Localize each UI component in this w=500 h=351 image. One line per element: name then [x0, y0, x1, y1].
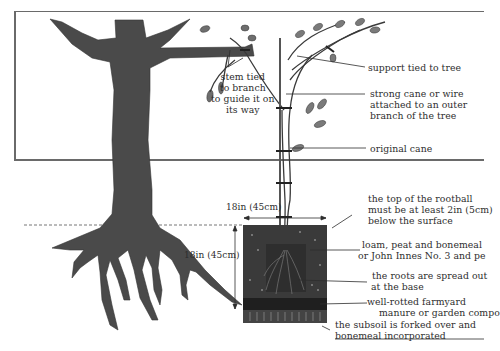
label-line: or John Innes No. 3 and pe [358, 250, 486, 261]
label-strong-cane: strong cane or wire attached to an outer… [370, 88, 467, 121]
label-line: attached to an outer [370, 99, 467, 110]
tree-icon [50, 19, 254, 330]
label-line: the roots are spread out [371, 270, 487, 281]
label-line: manure or garden compo [367, 307, 500, 318]
label-line: strong cane or wire [370, 88, 467, 99]
label-subsoil: the subsoil is forked over and bonemeal … [335, 319, 476, 341]
label-original-cane: original cane [370, 143, 432, 154]
label-stem-tied: stem tied to branch to guide it on its w… [211, 71, 275, 115]
label-line: branch of the tree [370, 110, 467, 121]
label-line: stem tied [211, 71, 275, 82]
label-line: bonemeal incorporated [335, 330, 476, 341]
manure-layer [243, 298, 327, 310]
label-rootball-top: the top of the rootball must be at least… [368, 193, 493, 226]
label-line: at the base [371, 281, 487, 292]
label-loam: loam, peat and bonemeal or John Innes No… [358, 239, 486, 261]
label-line: below the surface [368, 215, 493, 226]
dimension-width-label: 18in (45cm) [226, 202, 282, 213]
dimension-depth-label: 18in (45cm) [184, 250, 240, 261]
label-line: loam, peat and bonemeal [358, 239, 486, 250]
label-line: its way [211, 104, 275, 115]
label-support-tied: support tied to tree [368, 62, 461, 73]
label-line: to guide it on [211, 93, 275, 104]
label-roots-spread: the roots are spread out at the base [371, 270, 487, 292]
leaf-icon-group-vine [291, 17, 380, 153]
label-line: the subsoil is forked over and [335, 319, 476, 330]
label-manure: well-rotted farmyard manure or garden co… [367, 296, 500, 318]
label-line: must be at least 2in (5cm) [368, 204, 493, 215]
label-line: the top of the rootball [368, 193, 493, 204]
label-line: well-rotted farmyard [367, 296, 500, 307]
label-line: to branch [211, 82, 275, 93]
